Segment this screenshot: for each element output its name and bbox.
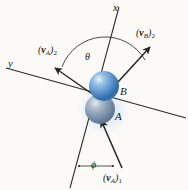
velocity-vector-vB2	[118, 47, 150, 82]
phi-label: ϕ	[91, 160, 96, 170]
sphere-a-label: A	[115, 111, 122, 122]
sphere-b	[89, 71, 119, 101]
theta-label: θ	[85, 52, 90, 62]
vB2-subscript: B	[144, 32, 148, 40]
vA2-index: 2	[53, 49, 57, 57]
vA1-subscript: A	[111, 177, 115, 185]
impact-diagram: y x B A θ ϕ (vA)2 (vB)2 (vA)1	[0, 0, 188, 190]
velocity-label-vB2: (vB)2	[136, 28, 155, 38]
sphere-b-label: B	[120, 86, 127, 97]
vA1-index: 1	[118, 177, 122, 185]
vB2-index: 2	[151, 32, 155, 40]
vA2-subscript: A	[46, 49, 50, 57]
velocity-label-vA2: (vA)2	[38, 45, 57, 55]
velocity-label-vA1: (vA)1	[103, 173, 122, 183]
y-axis-label: y	[8, 58, 13, 69]
x-axis-label: x	[113, 2, 118, 13]
